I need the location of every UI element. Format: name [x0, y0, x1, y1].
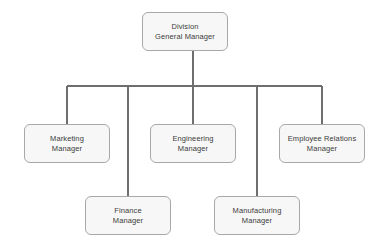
node-finance-manager[interactable]: Finance Manager [85, 196, 171, 235]
node-label-engineering-manager: Engineering Manager [170, 134, 215, 154]
node-marketing-manager[interactable]: Marketing Manager [24, 124, 110, 163]
node-label-finance-manager: Finance Manager [111, 206, 145, 226]
node-manufacturing-manager[interactable]: Manufacturing Manager [214, 196, 300, 235]
node-label-division-general-manager: Division General Manager [153, 22, 217, 42]
node-label-manufacturing-manager: Manufacturing Manager [231, 206, 284, 226]
node-label-marketing-manager: Marketing Manager [48, 134, 86, 154]
node-division-general-manager[interactable]: Division General Manager [142, 12, 228, 51]
node-label-employee-relations-manager: Employee Relations Manager [286, 134, 359, 154]
node-engineering-manager[interactable]: Engineering Manager [150, 124, 236, 163]
node-employee-relations-manager[interactable]: Employee Relations Manager [279, 124, 365, 163]
org-chart-canvas: Division General Manager Marketing Manag… [0, 0, 386, 248]
